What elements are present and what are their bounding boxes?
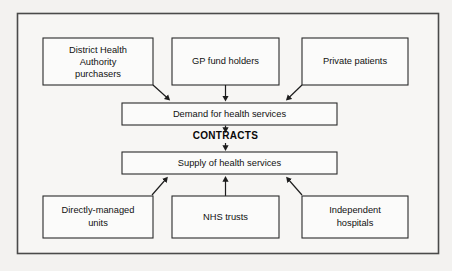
- label-district-health-authority-purchasers-line2: Authority: [80, 57, 117, 67]
- label-directly-managed-units-line2: units: [88, 218, 108, 228]
- label-contracts: CONTRACTS: [193, 130, 259, 141]
- label-directly-managed-units-line1: Directly-managed: [62, 205, 135, 215]
- label-independent-hospitals-line1: Independent: [329, 205, 381, 215]
- label-gp-fund-holders: GP fund holders: [192, 56, 259, 66]
- box-independent-hospitals: [302, 196, 408, 238]
- nhs-internal-market-diagram: District Health Authority purchasers GP …: [0, 0, 452, 271]
- diagram-container: District Health Authority purchasers GP …: [0, 0, 452, 271]
- label-district-health-authority-purchasers-line3: purchasers: [75, 69, 121, 79]
- label-district-health-authority-purchasers-line1: District Health: [69, 45, 127, 55]
- label-supply-of-health-services: Supply of health services: [178, 158, 282, 168]
- label-independent-hospitals-line2: hospitals: [337, 218, 374, 228]
- label-demand-for-health-services: Demand for health services: [173, 109, 287, 119]
- box-directly-managed-units: [43, 196, 153, 238]
- label-private-patients: Private patients: [323, 56, 387, 66]
- label-nhs-trusts: NHS trusts: [203, 212, 248, 222]
